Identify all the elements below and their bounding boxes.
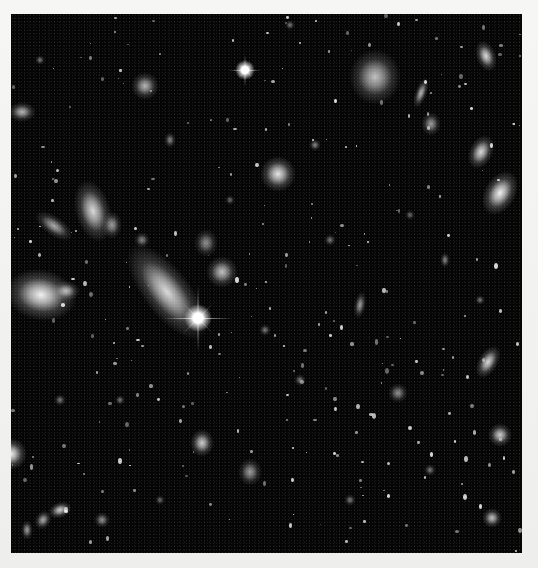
faint-galaxy xyxy=(71,278,75,280)
faint-galaxy xyxy=(355,431,357,433)
faint-galaxy xyxy=(283,345,285,347)
faint-galaxy xyxy=(494,263,498,268)
faint-galaxy xyxy=(113,362,117,365)
faint-galaxy xyxy=(83,473,85,475)
faint-galaxy xyxy=(285,264,288,267)
galaxy xyxy=(225,195,235,205)
faint-galaxy xyxy=(498,53,501,56)
faint-galaxy xyxy=(52,178,54,180)
galaxy xyxy=(424,464,436,476)
faint-galaxy xyxy=(325,311,327,314)
galaxy xyxy=(309,139,321,151)
faint-galaxy xyxy=(85,260,88,263)
faint-galaxy xyxy=(391,364,393,366)
faint-galaxy xyxy=(75,230,77,232)
galaxy xyxy=(260,156,296,192)
faint-galaxy xyxy=(464,83,467,85)
faint-galaxy xyxy=(497,179,500,181)
galaxy xyxy=(35,55,45,65)
galaxy xyxy=(440,252,450,268)
galaxy xyxy=(349,49,401,105)
faint-galaxy xyxy=(51,199,53,202)
faint-galaxy xyxy=(265,128,267,130)
faint-galaxy xyxy=(263,481,266,485)
faint-galaxy xyxy=(441,74,442,75)
faint-galaxy xyxy=(364,233,365,235)
faint-galaxy xyxy=(435,37,438,40)
faint-galaxy xyxy=(346,31,349,35)
faint-galaxy xyxy=(351,50,352,51)
faint-galaxy xyxy=(29,240,32,242)
faint-galaxy xyxy=(458,85,461,88)
galaxy xyxy=(115,395,125,405)
faint-galaxy xyxy=(174,231,177,236)
faint-galaxy xyxy=(454,440,456,443)
faint-galaxy xyxy=(382,288,385,292)
faint-galaxy xyxy=(513,123,515,125)
faint-galaxy xyxy=(459,74,462,79)
faint-galaxy xyxy=(383,490,385,492)
faint-galaxy xyxy=(136,339,140,341)
faint-galaxy xyxy=(83,281,87,286)
faint-galaxy xyxy=(363,520,366,523)
faint-galaxy xyxy=(312,139,314,141)
galaxy xyxy=(155,495,165,505)
faint-galaxy xyxy=(405,524,408,527)
faint-galaxy xyxy=(488,463,491,467)
faint-galaxy xyxy=(149,384,153,388)
faint-galaxy xyxy=(430,92,431,94)
faint-galaxy xyxy=(372,413,376,418)
faint-galaxy xyxy=(408,426,412,430)
galaxy xyxy=(206,256,238,288)
faint-galaxy xyxy=(482,358,484,362)
galaxy xyxy=(131,72,159,100)
galaxy xyxy=(94,512,110,528)
faint-galaxy xyxy=(333,397,337,402)
faint-galaxy xyxy=(89,540,93,544)
faint-galaxy xyxy=(499,44,503,47)
faint-galaxy xyxy=(415,360,417,363)
faint-galaxy xyxy=(417,441,419,444)
faint-galaxy xyxy=(397,22,400,26)
faint-galaxy xyxy=(89,56,91,60)
faint-galaxy xyxy=(473,430,477,434)
faint-galaxy xyxy=(52,318,55,323)
faint-galaxy xyxy=(413,321,415,324)
faint-galaxy xyxy=(350,342,354,345)
faint-galaxy xyxy=(23,478,27,482)
faint-galaxy xyxy=(439,195,441,197)
faint-galaxy xyxy=(262,223,265,225)
faint-galaxy xyxy=(218,333,221,336)
faint-galaxy xyxy=(519,125,520,126)
faint-galaxy xyxy=(157,398,160,401)
faint-galaxy xyxy=(334,99,337,104)
faint-galaxy xyxy=(389,184,390,186)
faint-galaxy xyxy=(340,325,343,330)
faint-galaxy xyxy=(14,174,17,178)
faint-galaxy xyxy=(209,503,213,506)
faint-galaxy xyxy=(126,327,129,329)
faint-galaxy xyxy=(470,107,473,109)
galaxy xyxy=(405,210,415,220)
faint-galaxy xyxy=(226,392,227,393)
faint-galaxy xyxy=(185,475,188,477)
faint-galaxy xyxy=(119,69,121,71)
faint-galaxy xyxy=(11,409,14,412)
faint-galaxy xyxy=(251,316,252,317)
faint-galaxy xyxy=(266,32,269,34)
faint-galaxy xyxy=(101,77,104,81)
faint-galaxy xyxy=(359,479,362,482)
faint-galaxy xyxy=(292,447,294,449)
galaxy xyxy=(388,383,408,403)
faint-galaxy xyxy=(233,128,236,130)
faint-galaxy xyxy=(470,404,474,408)
faint-galaxy xyxy=(311,203,313,205)
galaxy xyxy=(102,211,122,239)
faint-galaxy xyxy=(14,237,15,238)
galaxy xyxy=(324,234,336,246)
galaxy xyxy=(134,232,150,248)
faint-galaxy xyxy=(91,334,94,337)
galaxy xyxy=(475,295,485,305)
faint-galaxy xyxy=(255,163,259,167)
faint-galaxy xyxy=(482,170,483,171)
